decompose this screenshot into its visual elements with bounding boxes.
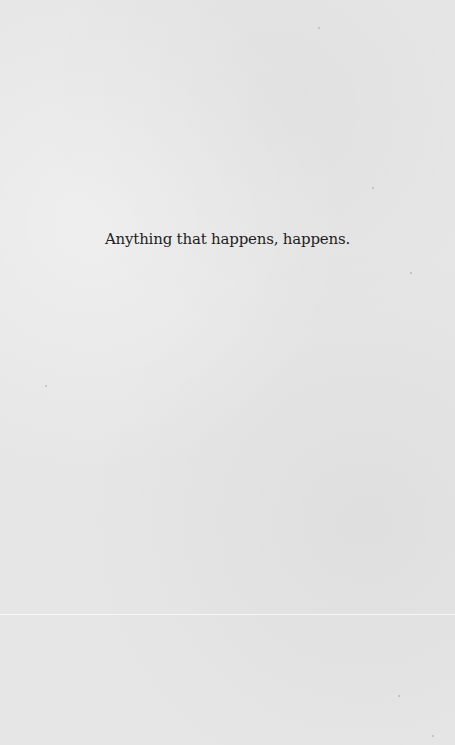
paper-crease [0, 614, 455, 615]
paper-speck [318, 27, 320, 29]
book-page: Anything that happens, happens. [0, 0, 455, 745]
paper-speck [398, 695, 400, 697]
paper-speck [410, 272, 412, 274]
paper-speck [45, 385, 47, 387]
paper-speck [372, 187, 374, 189]
epigraph-text: Anything that happens, happens. [0, 230, 455, 248]
paper-speck [432, 735, 434, 737]
